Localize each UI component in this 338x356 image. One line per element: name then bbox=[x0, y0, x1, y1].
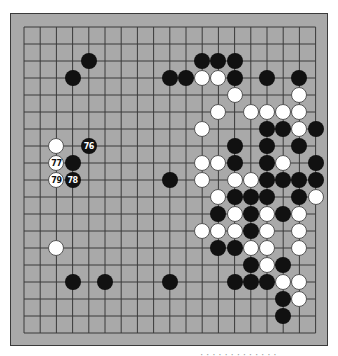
white-stone bbox=[243, 240, 259, 256]
white-stone bbox=[227, 206, 243, 222]
black-stone bbox=[227, 189, 243, 205]
black-stone bbox=[65, 70, 81, 86]
move-number: 77 bbox=[51, 159, 61, 168]
white-stone bbox=[259, 240, 275, 256]
white-stone bbox=[259, 223, 275, 239]
black-stone bbox=[243, 189, 259, 205]
black-stone bbox=[227, 138, 243, 154]
black-stone bbox=[97, 274, 113, 290]
black-stone bbox=[162, 172, 178, 188]
black-stone bbox=[243, 274, 259, 290]
move-number: 79 bbox=[51, 176, 61, 185]
black-stone bbox=[227, 274, 243, 290]
black-stone bbox=[259, 189, 275, 205]
black-stone bbox=[227, 240, 243, 256]
black-stone bbox=[308, 172, 324, 188]
black-stone bbox=[308, 121, 324, 137]
white-stone bbox=[259, 257, 275, 273]
white-stone bbox=[259, 206, 275, 222]
white-stone bbox=[227, 172, 243, 188]
black-stone bbox=[259, 274, 275, 290]
black-stone-76: 76 bbox=[81, 138, 97, 154]
black-stone bbox=[308, 155, 324, 171]
diagram-caption: · · · · · · · · · · · · · bbox=[200, 348, 338, 356]
black-stone bbox=[243, 223, 259, 239]
white-stone bbox=[227, 223, 243, 239]
black-stone bbox=[259, 172, 275, 188]
black-stone bbox=[243, 257, 259, 273]
black-stone bbox=[259, 121, 275, 137]
white-stone bbox=[308, 189, 324, 205]
black-stone bbox=[259, 70, 275, 86]
move-number: 76 bbox=[84, 142, 94, 151]
black-stone bbox=[243, 206, 259, 222]
black-stone bbox=[227, 70, 243, 86]
black-stone bbox=[259, 155, 275, 171]
white-stone bbox=[243, 172, 259, 188]
move-number: 78 bbox=[68, 176, 78, 185]
white-stone bbox=[227, 87, 243, 103]
white-stone bbox=[243, 104, 259, 120]
black-stone bbox=[227, 53, 243, 69]
go-board: 76777978 bbox=[10, 13, 328, 346]
black-stone bbox=[162, 70, 178, 86]
black-stone bbox=[259, 138, 275, 154]
black-stone bbox=[65, 274, 81, 290]
black-stone bbox=[227, 155, 243, 171]
black-stone bbox=[81, 53, 97, 69]
black-stone-78: 78 bbox=[65, 172, 81, 188]
black-stone bbox=[65, 155, 81, 171]
black-stone bbox=[162, 274, 178, 290]
white-stone bbox=[259, 104, 275, 120]
black-stone bbox=[178, 70, 194, 86]
